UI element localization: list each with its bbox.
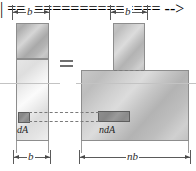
dim-arrow-right xyxy=(44,10,49,14)
dim-arrow-right xyxy=(185,155,190,159)
dimension-label-nb-bottom-right: nb xyxy=(126,151,139,162)
right-section-web xyxy=(113,23,145,71)
equals-bar-bottom xyxy=(60,65,73,67)
dim-arrow-right xyxy=(142,10,147,14)
equals-sign xyxy=(60,60,73,67)
figure-canvas: b b dA ndA b xyxy=(0,0,196,171)
neutral-axis-left xyxy=(0,83,60,84)
projection-dash-top xyxy=(29,112,99,113)
left-section-upper-block xyxy=(16,23,49,59)
dim-arrow-left xyxy=(80,155,85,159)
neutral-axis-right xyxy=(76,83,196,84)
dim-arrow-left xyxy=(111,10,116,14)
right-section-flange xyxy=(81,70,189,141)
dim-tick-right xyxy=(49,5,50,20)
element-ndA-label: ndA xyxy=(99,125,115,135)
dim-tick-right xyxy=(190,150,191,164)
dim-tick-right xyxy=(50,150,51,164)
equals-bar-top xyxy=(60,60,73,62)
dimension-label-b-top-left: b xyxy=(26,6,34,17)
element-ndA-rect xyxy=(98,111,130,122)
dim-arrow-left xyxy=(13,10,18,14)
dim-tick-right xyxy=(147,5,148,20)
projection-dash-bottom xyxy=(29,121,99,122)
ext-line-left xyxy=(81,141,82,153)
ext-line-right xyxy=(48,141,49,153)
ext-line-left xyxy=(16,141,17,153)
ext-line-right xyxy=(188,141,189,153)
dim-arrow-left xyxy=(14,155,19,159)
web-flange-seam-dash xyxy=(114,70,144,71)
element-dA-label: dA xyxy=(17,125,28,135)
dim-arrow-right xyxy=(45,155,50,159)
dimension-label-b-bottom-left: b xyxy=(27,151,35,162)
dimension-label-b-top-right: b xyxy=(124,6,132,17)
